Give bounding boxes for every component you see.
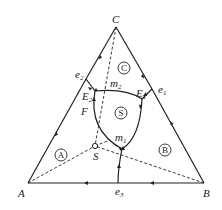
region-label-c: C — [121, 63, 127, 73]
arrow-icon — [150, 181, 154, 185]
label-e1: e1 — [158, 83, 166, 97]
region-label-s: S — [118, 108, 123, 118]
ternary-phase-diagram: A B C S C A B e2 e1 e3 E2 E1 m2 m1 S F — [0, 0, 222, 210]
label-e3: e3 — [115, 185, 124, 199]
triangle-edges — [28, 27, 204, 183]
edge-b-e1 — [152, 89, 204, 183]
curve-E2-E1 — [95, 90, 142, 99]
region-label-a: A — [58, 150, 65, 160]
vertex-label-c: C — [112, 13, 120, 25]
dashed-lines — [28, 27, 204, 183]
arrow-icon — [84, 181, 88, 185]
edge-arrows — [55, 55, 174, 185]
label-E2: E2 — [81, 90, 93, 104]
label-m1: m1 — [115, 131, 126, 145]
arrow-icon — [92, 97, 96, 101]
label-m2: m2 — [110, 77, 122, 91]
label-e2: e2 — [75, 68, 84, 82]
edge-c-e1 — [116, 27, 152, 89]
region-label-b: B — [162, 145, 168, 155]
join-b-s — [95, 146, 204, 183]
vertex-label-b: B — [203, 187, 210, 199]
label-f: F — [80, 105, 88, 117]
arrow-icon — [117, 164, 121, 168]
vertex-label-a: A — [17, 187, 25, 199]
compound-point — [92, 143, 97, 148]
label-s: S — [93, 150, 99, 162]
label-E1: E1 — [135, 87, 146, 101]
